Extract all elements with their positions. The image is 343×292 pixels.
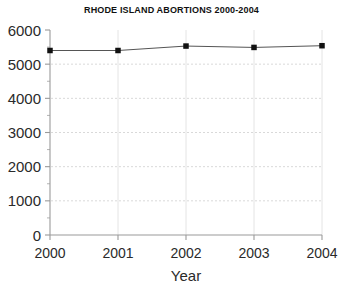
y-axis-tick-label: 4000 — [8, 90, 41, 107]
data-point-marker — [47, 48, 53, 54]
y-axis-major-ticks — [45, 30, 50, 235]
y-axis-tick-label: 5000 — [8, 56, 41, 73]
y-axis-tick-label: 0 — [33, 227, 41, 244]
data-point-marker — [115, 48, 121, 54]
x-axis-tick-label: 2003 — [238, 245, 269, 261]
y-axis-tick-label: 2000 — [8, 158, 41, 175]
y-axis-tick-labels: 0100020003000400050006000 — [8, 22, 41, 244]
x-axis-tick-label: 2002 — [170, 245, 201, 261]
line-chart-plot: 0100020003000400050006000 20002001200220… — [0, 0, 343, 292]
data-point-marker — [319, 43, 325, 49]
y-axis-tick-label: 1000 — [8, 192, 41, 209]
x-axis-tick-label: 2000 — [34, 245, 65, 261]
x-axis-tick-label: 2001 — [102, 245, 133, 261]
x-axis-tick-label: 2004 — [306, 245, 337, 261]
y-axis-tick-label: 3000 — [8, 124, 41, 141]
x-axis-tick-labels: 20002001200220032004 — [34, 245, 337, 261]
x-axis-ticks — [50, 235, 322, 240]
y-axis-tick-label: 6000 — [8, 22, 41, 39]
x-axis-title: Year — [171, 267, 201, 284]
chart-container: RHODE ISLAND ABORTIONS 2000-2004 0100020… — [0, 0, 343, 292]
data-point-marker — [251, 45, 257, 51]
data-point-marker — [183, 43, 189, 49]
